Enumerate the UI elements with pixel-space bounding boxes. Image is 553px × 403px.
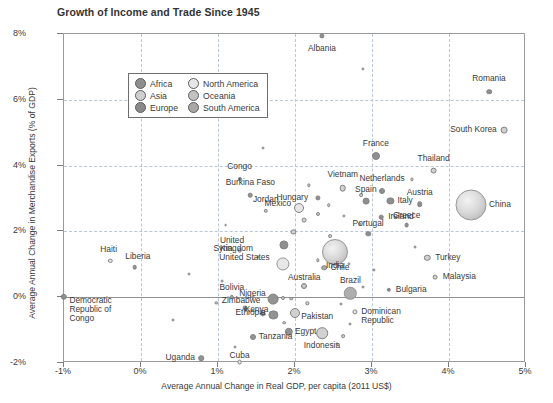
data-point[interactable] [430,167,437,174]
y-axis-tick-mark [57,99,63,100]
legend-item-north-america[interactable]: North America [188,78,260,89]
legend-item-asia[interactable]: Asia [135,90,178,101]
point-label: Cuba [230,351,250,360]
data-point[interactable] [290,308,300,318]
data-point-unlabeled[interactable] [343,214,346,217]
data-point-unlabeled[interactable] [187,273,190,276]
data-point-unlabeled[interactable] [410,178,413,181]
data-point-unlabeled[interactable] [341,334,345,338]
x-axis-tick-label: 0% [133,366,146,376]
data-point-unlabeled[interactable] [289,297,293,301]
point-label: Tanzania [259,332,293,341]
legend-swatch-icon [188,78,199,89]
y-axis-tick-mark [57,33,63,34]
data-point[interactable] [486,89,492,95]
data-point-unlabeled[interactable] [261,146,264,149]
data-point-unlabeled[interactable] [316,212,320,216]
point-label: Romania [472,74,506,83]
gridline-horizontal [64,297,524,298]
point-label: Vietnam [327,170,358,179]
legend-swatch-icon [188,90,199,101]
data-point-unlabeled[interactable] [340,302,343,305]
y-axis-tick-label: 0% [13,291,26,301]
legend-item-africa[interactable]: Africa [135,78,178,89]
data-point-unlabeled[interactable] [306,301,309,304]
data-point-unlabeled[interactable] [302,218,307,223]
data-point-unlabeled[interactable] [307,184,310,187]
data-point[interactable] [237,360,242,365]
y-axis-title: Average Annual Change in Merchandise Exp… [27,53,37,353]
legend-item-label: South America [203,103,260,113]
data-point[interactable] [404,223,409,228]
data-point[interactable] [424,255,430,261]
data-point[interactable] [269,311,278,320]
legend-swatch-icon [188,102,199,113]
data-point[interactable] [365,231,370,236]
point-label: South Korea [450,125,497,134]
legend-item-europe[interactable]: Europe [135,102,178,113]
data-point[interactable] [501,127,508,134]
point-label: Ethiopia [235,308,265,317]
x-axis-title: Average Annual Change in Real GDP, per c… [0,381,553,391]
point-label: Burkina Faso [226,178,275,187]
point-label: Australia [288,273,321,282]
data-point-unlabeled[interactable] [172,319,175,322]
x-axis-tick-label: 1% [210,366,223,376]
data-point[interactable] [268,294,279,305]
data-point[interactable] [198,355,204,361]
legend-item-label: Oceania [203,91,235,101]
data-point[interactable] [372,152,380,160]
data-point[interactable] [352,309,357,314]
point-label: Austria [407,188,433,197]
data-point[interactable] [276,257,289,270]
data-point[interactable] [301,283,307,289]
data-point[interactable] [133,265,138,270]
data-point[interactable] [319,33,324,38]
data-point[interactable] [433,274,438,279]
data-point-unlabeled[interactable] [327,203,331,207]
x-axis-tick-label: 2% [287,366,300,376]
data-point[interactable] [455,190,486,221]
y-axis-tick-mark [57,165,63,166]
legend-item-south-america[interactable]: South America [188,102,260,113]
data-point-unlabeled[interactable] [361,286,364,289]
x-axis-tick-mark [63,362,64,367]
point-label: Jordan [253,195,279,204]
point-label: Bulgaria [396,285,427,294]
legend-item-label: Asia [150,91,167,101]
data-point-unlabeled[interactable] [329,234,333,238]
y-axis-tick-label: 2% [13,225,26,235]
data-point[interactable] [387,288,391,292]
point-label: Chile [330,263,349,272]
data-point[interactable] [108,259,112,263]
x-axis-tick-mark [525,362,526,367]
data-point[interactable] [379,188,385,194]
data-point[interactable] [316,328,328,340]
data-point[interactable] [264,209,268,213]
data-point[interactable] [248,193,253,198]
data-point-unlabeled[interactable] [414,246,417,249]
data-point[interactable] [417,202,423,208]
data-point-unlabeled[interactable] [372,268,375,271]
y-axis-tick-label: 4% [13,160,26,170]
data-point[interactable] [387,198,394,205]
y-axis-tick-label: 8% [13,28,26,38]
data-point-unlabeled[interactable] [361,67,364,70]
data-point[interactable] [294,203,304,213]
bubble-chart: Growth of Income and Trade Since 1945 Al… [0,0,553,403]
data-point[interactable] [362,198,369,205]
legend[interactable]: AfricaNorth AmericaAsiaOceaniaEuropeSout… [128,73,268,118]
data-point-unlabeled[interactable] [282,321,286,325]
x-axis-tick-mark [371,362,372,367]
data-point[interactable] [280,240,289,249]
data-point-unlabeled[interactable] [233,346,236,349]
data-point[interactable] [339,185,346,192]
legend-item-oceania[interactable]: Oceania [188,90,260,101]
point-label: Greece [393,211,420,220]
data-point[interactable] [316,195,321,200]
data-point-unlabeled[interactable] [349,323,352,326]
data-point-unlabeled[interactable] [281,296,285,300]
data-point-unlabeled[interactable] [316,259,319,262]
data-point-unlabeled[interactable] [224,224,227,227]
data-point[interactable] [250,334,256,340]
